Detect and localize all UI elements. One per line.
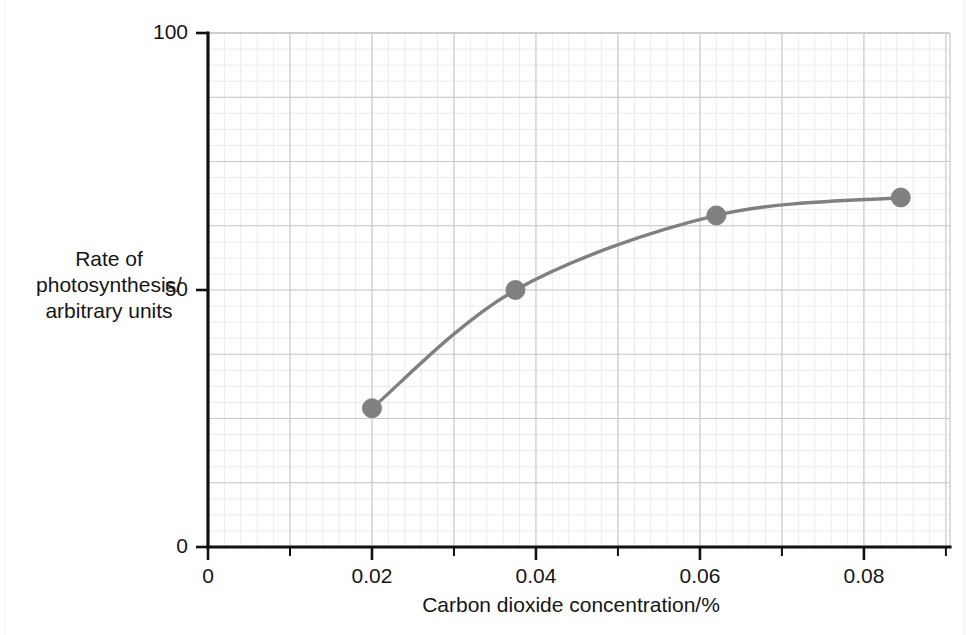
y-tick-label-100: 100 [118, 20, 188, 44]
data-point-marker [506, 281, 525, 300]
data-curve [372, 197, 901, 408]
data-markers [362, 188, 910, 418]
y-tick-label-0: 0 [118, 534, 188, 558]
axis-ticks [196, 33, 946, 560]
y-tick-label-50: 50 [118, 277, 188, 301]
x-tick-label-0-02: 0.02 [327, 564, 417, 588]
x-axis-title: Carbon dioxide concentration/% [316, 592, 826, 618]
x-tick-label-0-06: 0.06 [655, 564, 745, 588]
data-point-marker [362, 399, 381, 418]
data-point-marker [891, 188, 910, 207]
y-axis-title-line-1: Rate of [18, 246, 200, 272]
major-gridlines [208, 33, 950, 547]
x-tick-label-0-08: 0.08 [819, 564, 909, 588]
x-tick-label-0: 0 [163, 564, 253, 588]
photosynthesis-co2-chart: Rate ofphotosynthesis/arbitrary units Ca… [0, 0, 966, 635]
x-tick-label-0-04: 0.04 [491, 564, 581, 588]
trend-curve [372, 197, 901, 408]
y-axis-title-line-3: arbitrary units [18, 298, 200, 324]
data-point-marker [707, 206, 726, 225]
